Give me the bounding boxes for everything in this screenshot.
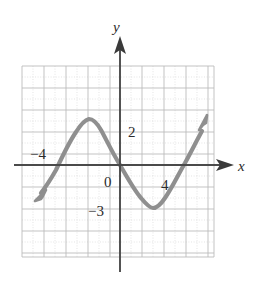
origin-label: 0 bbox=[104, 174, 112, 190]
x-tick-label-4: 4 bbox=[161, 177, 169, 193]
y-tick-label-2: 2 bbox=[128, 124, 136, 140]
curve-right-arrowhead bbox=[199, 115, 207, 130]
coordinate-plane-figure: x y 0 −4 4 2 −3 bbox=[0, 0, 275, 284]
y-axis-label: y bbox=[111, 19, 120, 35]
graph-screenshot: x y 0 −4 4 2 −3 bbox=[0, 0, 275, 284]
x-axis-label: x bbox=[237, 158, 245, 174]
x-tick-label-neg4: −4 bbox=[30, 146, 46, 162]
function-curve bbox=[35, 115, 207, 208]
y-tick-label-neg3: −3 bbox=[88, 203, 104, 219]
